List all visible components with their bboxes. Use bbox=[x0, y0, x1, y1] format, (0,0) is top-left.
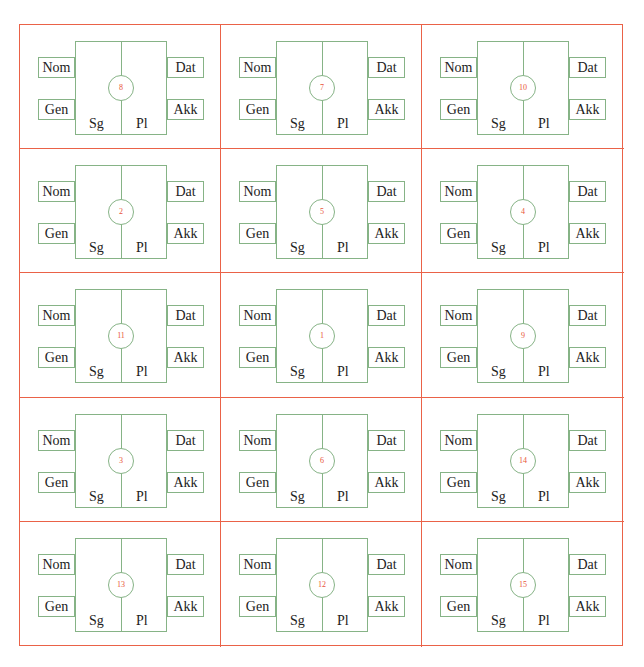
genitive-box: Gen bbox=[239, 596, 276, 617]
singular-label: Sg bbox=[491, 490, 506, 504]
plural-label: Pl bbox=[337, 614, 349, 628]
dative-box: Dat bbox=[167, 430, 204, 451]
singular-label: Sg bbox=[89, 241, 104, 255]
accusative-box: Akk bbox=[368, 596, 405, 617]
number-box: 1 Sg Pl bbox=[276, 289, 368, 383]
cell-number: 8 bbox=[119, 84, 123, 92]
dative-label: Dat bbox=[376, 558, 396, 572]
cell-number-circle: 12 bbox=[309, 572, 335, 598]
plural-label: Pl bbox=[538, 614, 550, 628]
genitive-box: Gen bbox=[440, 347, 477, 368]
dative-label: Dat bbox=[376, 61, 396, 75]
genitive-box: Gen bbox=[38, 596, 75, 617]
genitive-box: Gen bbox=[239, 99, 276, 120]
singular-label: Sg bbox=[89, 117, 104, 131]
dative-box: Dat bbox=[368, 181, 405, 202]
accusative-box: Akk bbox=[569, 223, 606, 244]
grid-cell-1: Nom Gen 1 Sg Pl Dat Akk bbox=[221, 273, 422, 398]
dative-label: Dat bbox=[577, 309, 597, 323]
grid-cell-11: Nom Gen 11 Sg Pl Dat Akk bbox=[20, 273, 221, 398]
grid-cell-2: Nom Gen 2 Sg Pl Dat Akk bbox=[20, 149, 221, 273]
genitive-box: Gen bbox=[239, 472, 276, 493]
genitive-label: Gen bbox=[246, 476, 269, 490]
number-box: 14 Sg Pl bbox=[477, 414, 569, 508]
grid-cell-3: Nom Gen 3 Sg Pl Dat Akk bbox=[20, 398, 221, 522]
genitive-box: Gen bbox=[38, 99, 75, 120]
nominative-box: Nom bbox=[440, 181, 477, 202]
genitive-label: Gen bbox=[45, 103, 68, 117]
accusative-box: Akk bbox=[167, 99, 204, 120]
plural-label: Pl bbox=[538, 117, 550, 131]
accusative-label: Akk bbox=[173, 103, 197, 117]
accusative-box: Akk bbox=[167, 223, 204, 244]
dative-label: Dat bbox=[376, 434, 396, 448]
dative-box: Dat bbox=[569, 57, 606, 78]
grid-cell-7: Nom Gen 7 Sg Pl Dat Akk bbox=[221, 25, 422, 149]
nominative-label: Nom bbox=[445, 309, 473, 323]
genitive-label: Gen bbox=[45, 600, 68, 614]
plural-label: Pl bbox=[136, 365, 148, 379]
genitive-label: Gen bbox=[246, 600, 269, 614]
cell-number-circle: 14 bbox=[510, 448, 536, 474]
singular-label: Sg bbox=[290, 490, 305, 504]
nominative-box: Nom bbox=[38, 181, 75, 202]
cell-number: 3 bbox=[119, 457, 123, 465]
cell-number-circle: 8 bbox=[108, 75, 134, 101]
dative-box: Dat bbox=[167, 181, 204, 202]
grid-cell-5: Nom Gen 5 Sg Pl Dat Akk bbox=[221, 149, 422, 273]
number-box: 7 Sg Pl bbox=[276, 41, 368, 135]
number-box: 12 Sg Pl bbox=[276, 538, 368, 632]
nominative-label: Nom bbox=[244, 558, 272, 572]
cell-number: 7 bbox=[320, 84, 324, 92]
cell-number-circle: 3 bbox=[108, 448, 134, 474]
genitive-box: Gen bbox=[440, 596, 477, 617]
dative-label: Dat bbox=[577, 558, 597, 572]
dative-label: Dat bbox=[175, 434, 195, 448]
cell-number-circle: 13 bbox=[108, 572, 134, 598]
singular-label: Sg bbox=[290, 365, 305, 379]
nominative-label: Nom bbox=[43, 61, 71, 75]
dative-box: Dat bbox=[368, 554, 405, 575]
accusative-box: Akk bbox=[167, 472, 204, 493]
cell-number-circle: 7 bbox=[309, 75, 335, 101]
accusative-label: Akk bbox=[374, 476, 398, 490]
accusative-label: Akk bbox=[374, 227, 398, 241]
genitive-box: Gen bbox=[38, 472, 75, 493]
nominative-label: Nom bbox=[244, 185, 272, 199]
accusative-label: Akk bbox=[374, 103, 398, 117]
cell-number: 6 bbox=[320, 457, 324, 465]
dative-label: Dat bbox=[577, 434, 597, 448]
dative-label: Dat bbox=[175, 309, 195, 323]
dative-box: Dat bbox=[368, 305, 405, 326]
genitive-label: Gen bbox=[45, 476, 68, 490]
cell-number: 11 bbox=[117, 332, 125, 340]
number-box: 3 Sg Pl bbox=[75, 414, 167, 508]
grid-cell-10: Nom Gen 10 Sg Pl Dat Akk bbox=[422, 25, 624, 149]
dative-label: Dat bbox=[175, 61, 195, 75]
genitive-label: Gen bbox=[246, 227, 269, 241]
dative-box: Dat bbox=[167, 57, 204, 78]
accusative-label: Akk bbox=[575, 476, 599, 490]
nominative-box: Nom bbox=[239, 57, 276, 78]
grid-cell-14: Nom Gen 14 Sg Pl Dat Akk bbox=[422, 398, 624, 522]
cell-number: 9 bbox=[521, 332, 525, 340]
genitive-box: Gen bbox=[38, 223, 75, 244]
nominative-box: Nom bbox=[440, 554, 477, 575]
number-box: 10 Sg Pl bbox=[477, 41, 569, 135]
genitive-label: Gen bbox=[447, 600, 470, 614]
cell-number-circle: 6 bbox=[309, 448, 335, 474]
nominative-label: Nom bbox=[445, 434, 473, 448]
plural-label: Pl bbox=[136, 490, 148, 504]
accusative-box: Akk bbox=[569, 472, 606, 493]
accusative-box: Akk bbox=[368, 472, 405, 493]
nominative-box: Nom bbox=[440, 57, 477, 78]
accusative-label: Akk bbox=[173, 351, 197, 365]
nominative-label: Nom bbox=[244, 61, 272, 75]
nominative-label: Nom bbox=[445, 61, 473, 75]
plural-label: Pl bbox=[538, 365, 550, 379]
singular-label: Sg bbox=[89, 365, 104, 379]
number-box: 6 Sg Pl bbox=[276, 414, 368, 508]
plural-label: Pl bbox=[337, 490, 349, 504]
cell-number-circle: 10 bbox=[510, 75, 536, 101]
grid-cell-13: Nom Gen 13 Sg Pl Dat Akk bbox=[20, 522, 221, 647]
